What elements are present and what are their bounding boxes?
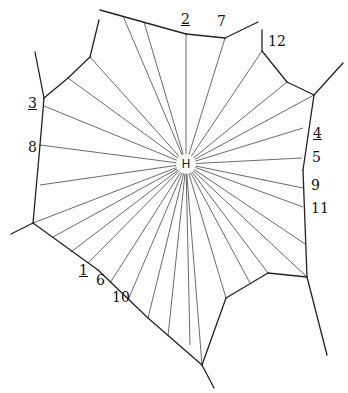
spoke-line [186, 51, 262, 164]
spoke-line [168, 164, 186, 336]
boundary-edge [11, 223, 33, 234]
boundary-edge [44, 78, 68, 98]
boundary-edge [40, 98, 44, 145]
spoke-line [186, 164, 250, 283]
boundary-edge [90, 20, 99, 57]
spokes [33, 16, 314, 365]
spoke-line [110, 164, 186, 283]
boundary-edge [202, 365, 214, 388]
territory-label: 2 [181, 12, 190, 26]
spoke-line [40, 164, 186, 185]
boundary-edge [268, 273, 307, 277]
center-hub-label: H [176, 154, 196, 174]
territory-label: 5 [312, 150, 321, 164]
spoke-line [128, 164, 186, 300]
spoke-line [144, 22, 186, 164]
territory-label: 3 [28, 96, 37, 110]
boundary-edge [225, 22, 258, 38]
spoke-line [148, 164, 186, 318]
boundary-edge [100, 10, 186, 34]
spoke-line [186, 82, 287, 164]
spoke-line [90, 57, 186, 164]
boundary-edge [35, 52, 44, 98]
spoke-line [71, 164, 186, 252]
spoke-line [186, 164, 303, 207]
territory-label: 7 [217, 14, 226, 28]
spoke-line [88, 164, 186, 263]
boundary-edge [33, 145, 40, 223]
spoke-line [186, 95, 314, 164]
spoke-line [186, 164, 268, 273]
territory-label: 10 [112, 290, 130, 304]
territory-label: 8 [28, 140, 37, 154]
territory-label: 1 [79, 263, 88, 277]
boundary-edge [287, 82, 314, 95]
boundary-edge [186, 34, 225, 38]
boundary-edge [68, 57, 90, 78]
territory-diagram [0, 0, 348, 393]
spoke-line [186, 164, 226, 298]
boundary-edge [148, 318, 202, 365]
territory-label: 4 [313, 126, 322, 140]
boundary-edge [303, 170, 307, 277]
boundary-edge [262, 51, 287, 82]
territory-label: 12 [268, 34, 286, 48]
boundary-edge [307, 277, 327, 355]
spoke-line [53, 164, 186, 237]
boundary-edge [202, 298, 226, 365]
spoke-line [186, 38, 225, 164]
territory-label: 6 [96, 273, 105, 287]
spoke-line [33, 164, 186, 223]
territory-label: 11 [311, 201, 329, 215]
boundary-edge [314, 63, 343, 95]
territory-label: 9 [311, 178, 320, 192]
spoke-line [186, 164, 307, 277]
